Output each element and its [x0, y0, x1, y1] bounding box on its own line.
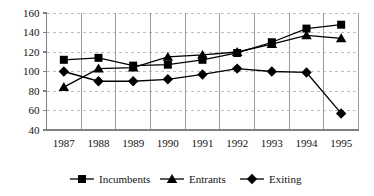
- line-chart: 406080100120140160 198719881989199019911…: [0, 0, 374, 196]
- legend-marker-diamond: [247, 174, 257, 184]
- y-axis-tick-label: 60: [29, 104, 41, 116]
- legend-item-exiting[interactable]: Exiting: [240, 173, 302, 185]
- legend-item-incumbents[interactable]: Incumbents: [70, 173, 150, 185]
- legend-label: Exiting: [269, 173, 302, 185]
- legend-label: Incumbents: [99, 173, 150, 185]
- y-axis-tick-label: 120: [23, 46, 40, 58]
- x-axis-tick-label: 1994: [296, 137, 319, 149]
- x-axis-tick-label: 1988: [88, 137, 111, 149]
- data-point: [197, 69, 207, 79]
- data-point: [93, 76, 103, 86]
- data-point: [128, 76, 138, 86]
- legend-item-entrants[interactable]: Entrants: [160, 173, 226, 185]
- data-point: [232, 63, 242, 73]
- data-point: [163, 74, 173, 84]
- x-axis-tick-label: 1991: [192, 137, 214, 149]
- y-axis-tick-label: 100: [23, 65, 40, 77]
- data-point: [59, 82, 70, 91]
- series-incumbents: [60, 21, 345, 70]
- y-axis-tick-label: 40: [29, 124, 41, 136]
- legend-label: Entrants: [189, 173, 226, 185]
- data-point: [164, 61, 172, 69]
- x-axis-tick-label: 1995: [330, 137, 353, 149]
- x-axis-tick-label: 1993: [261, 137, 284, 149]
- y-axis-tick-label: 140: [23, 26, 40, 38]
- x-axis-tick-labels: 198719881989199019911992199319941995: [53, 137, 353, 149]
- y-axis-tick-label: 160: [23, 7, 40, 19]
- data-point: [267, 66, 277, 76]
- x-axis-tick-label: 1992: [226, 137, 248, 149]
- data-point: [337, 21, 345, 29]
- chart-canvas: 406080100120140160 198719881989199019911…: [0, 0, 374, 196]
- chart-legend: IncumbentsEntrantsExiting: [70, 173, 302, 185]
- data-point: [60, 56, 68, 64]
- y-axis-tick-labels: 406080100120140160: [23, 7, 40, 136]
- data-point: [95, 54, 103, 62]
- x-axis-tick-label: 1989: [122, 137, 145, 149]
- y-axis-tick-label: 80: [29, 85, 41, 97]
- x-axis-tick-label: 1987: [53, 137, 76, 149]
- x-axis-tick-label: 1990: [157, 137, 180, 149]
- data-series-layer: [59, 21, 347, 119]
- legend-marker-square: [78, 175, 86, 183]
- data-point: [59, 66, 69, 76]
